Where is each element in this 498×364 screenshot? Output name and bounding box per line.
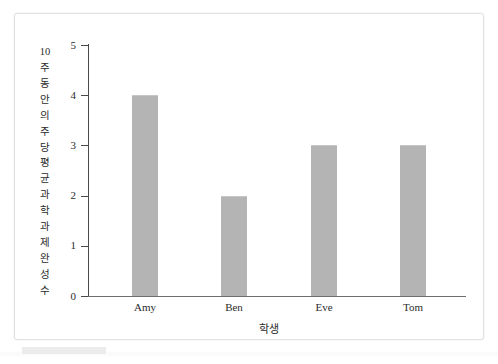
y-tick-5 xyxy=(81,45,88,46)
y-title-char: 의 xyxy=(40,110,50,121)
x-label-amy: Amy xyxy=(105,301,185,314)
x-axis-title: 학생 xyxy=(209,323,329,336)
y-title-char: 주 xyxy=(40,126,50,137)
y-tick-label-3: 3 xyxy=(62,140,76,151)
y-tick-0 xyxy=(81,296,88,297)
y-tick-label-4: 4 xyxy=(62,90,76,101)
bar-amy xyxy=(132,95,158,296)
bar-chart: 5 4 3 2 1 0 Amy Ben Eve Tom 학생 10 주 동 안 … xyxy=(0,0,498,364)
y-axis-title: 10 주 동 안 의 주 당 평 균 과 학 과 제 완 성 수 xyxy=(34,46,56,296)
y-tick-label-1: 1 xyxy=(62,240,76,251)
y-title-char: 성 xyxy=(40,269,50,280)
y-title-char: 10 xyxy=(40,46,51,57)
bar-tom xyxy=(400,145,426,296)
bar-ben xyxy=(221,196,247,296)
y-title-char: 당 xyxy=(40,142,50,153)
y-tick-label-0: 0 xyxy=(62,291,76,302)
y-tick-label-5: 5 xyxy=(62,40,76,51)
y-title-char: 과 xyxy=(40,189,50,200)
y-title-char: 제 xyxy=(40,237,50,248)
y-title-char: 완 xyxy=(40,253,50,264)
bar-eve xyxy=(311,145,337,296)
y-title-char: 평 xyxy=(40,157,50,168)
y-title-char: 학 xyxy=(40,205,50,216)
y-title-char: 과 xyxy=(40,221,50,232)
y-title-char: 안 xyxy=(40,94,50,105)
x-axis-line xyxy=(88,296,466,297)
y-axis-line xyxy=(88,44,89,297)
x-label-eve: Eve xyxy=(284,301,364,314)
x-label-tom: Tom xyxy=(373,301,453,314)
scan-artifact-mark xyxy=(22,347,106,354)
y-title-char: 수 xyxy=(40,285,50,296)
y-title-char: 주 xyxy=(40,62,50,73)
y-title-char: 동 xyxy=(40,78,50,89)
y-tick-3 xyxy=(81,145,88,146)
y-tick-1 xyxy=(81,246,88,247)
y-tick-label-2: 2 xyxy=(62,190,76,201)
y-tick-4 xyxy=(81,95,88,96)
y-title-char: 균 xyxy=(40,173,50,184)
x-label-ben: Ben xyxy=(194,301,274,314)
y-tick-2 xyxy=(81,196,88,197)
